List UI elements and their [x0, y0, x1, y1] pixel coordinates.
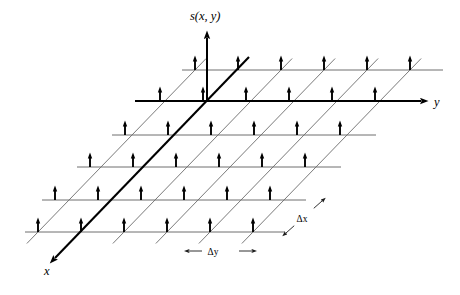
y-axis-label: y: [432, 95, 440, 109]
x-axis-label: x: [43, 264, 50, 278]
delta-x-label: Δx: [297, 214, 308, 224]
sampling-grid-diagram: s(x, y) y x Δx Δy: [0, 0, 460, 295]
function-label: s(x, y): [190, 9, 221, 23]
delta-y-label: Δy: [208, 247, 219, 257]
canvas-background: [0, 0, 460, 295]
figure-root: s(x, y) y x Δx Δy: [0, 0, 460, 295]
